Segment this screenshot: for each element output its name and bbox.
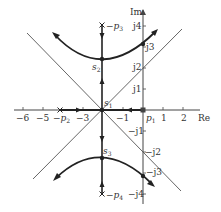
real-tick-label: −1: [116, 113, 129, 123]
real-tick-label: −3: [76, 113, 90, 123]
pole-p3-label: −p3: [106, 21, 123, 32]
imag-tick-label: −j3: [146, 167, 162, 177]
arrow-down-icon: [100, 33, 105, 39]
point-s1: [100, 108, 104, 112]
imag-tick-label: j1: [132, 84, 142, 94]
arrow-down-icon: [100, 136, 105, 142]
crossing-point-lower: [141, 174, 145, 178]
imag-tick-label: j2: [132, 62, 142, 72]
point-s1-label: s1: [104, 98, 112, 109]
pole-p1-marker: [141, 108, 146, 113]
arrow-right-icon: [76, 108, 82, 113]
imag-tick-label: −j4: [128, 189, 144, 199]
real-axis-label: Re: [198, 113, 210, 123]
imag-tick-label: j4: [132, 21, 142, 31]
real-tick-label: −6: [16, 113, 30, 123]
arrow-left-icon: [126, 108, 132, 113]
locus-upper-branch: [55, 32, 155, 59]
arrow-up-icon: [100, 181, 105, 187]
arrow-up-icon: [100, 78, 105, 84]
point-s3-label: s3: [103, 146, 112, 157]
real-tick-label: 1: [161, 113, 167, 123]
imag-tick-label: −j1: [128, 126, 144, 136]
locus-lower-branch: [56, 157, 152, 184]
crossing-point-upper: [141, 42, 145, 46]
point-s2-label: s2: [92, 62, 101, 73]
point-s3: [100, 156, 104, 160]
imag-tick-label: −j2: [145, 147, 161, 157]
root-locus-diagram: −6 −5 −3 −1 1 2 Re Im j4 j3 j2 j1 −j1 −j…: [0, 0, 221, 212]
point-s2: [100, 57, 104, 61]
pole-p1-label: p1: [146, 113, 156, 124]
real-tick-label: 2: [181, 113, 187, 123]
pole-p4-label: −p4: [106, 190, 123, 201]
imag-tick-label: j3: [145, 42, 155, 52]
imag-axis-label: Im: [130, 7, 143, 17]
pole-p2-label: −p2: [53, 113, 70, 124]
real-tick-label: −5: [36, 113, 50, 123]
root-locus-plot: −6 −5 −3 −1 1 2 Re Im j4 j3 j2 j1 −j1 −j…: [0, 0, 221, 212]
